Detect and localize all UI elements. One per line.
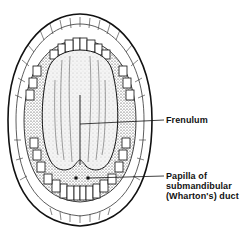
mouth-illustration <box>0 0 252 240</box>
papilla-label: Papilla of submandibular (Wharton's) duc… <box>166 171 239 201</box>
frenulum-label: Frenulum <box>166 115 208 125</box>
papilla-label-line1: Papilla of <box>166 171 239 181</box>
papilla-left <box>74 176 78 180</box>
papilla-label-line2: submandibular <box>166 181 239 191</box>
papilla-label-line3: (Wharton's) duct <box>166 191 239 201</box>
